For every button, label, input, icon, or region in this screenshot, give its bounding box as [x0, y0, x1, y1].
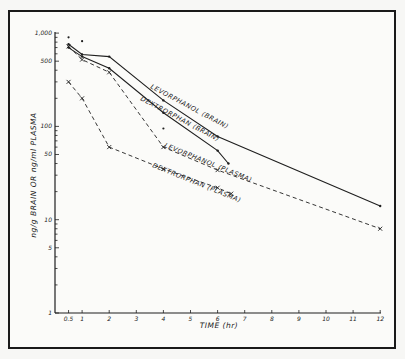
data-curves: [67, 36, 383, 230]
chart-plot: 1510501005001,000 0.5123456789101112 TIM…: [0, 0, 405, 359]
x-tick-label: 9: [297, 315, 301, 322]
data-point-dot: [108, 67, 110, 69]
data-point-dot: [67, 36, 69, 38]
data-point-dot: [108, 55, 110, 57]
data-point-dot: [81, 55, 83, 57]
x-tick-label: 12: [376, 315, 384, 322]
data-point-x-marker: [67, 80, 71, 84]
data-point-dot: [379, 205, 381, 207]
data-point-dot: [162, 99, 164, 101]
y-axis-title: ng/g BRAIN OR ng/ml PLASMA: [29, 112, 38, 237]
y-tick-label: 1,000: [35, 29, 52, 36]
x-tick-label: 3: [134, 315, 138, 322]
data-point-dot: [227, 162, 229, 164]
y-tick-label: 500: [41, 57, 53, 64]
data-point-x-marker: [80, 96, 84, 100]
y-tick-label: 10: [44, 216, 52, 223]
x-tick-label: 11: [349, 315, 357, 322]
data-point-dot: [81, 40, 83, 42]
y-tick-label: 50: [44, 150, 52, 157]
x-tick-label: 0.5: [64, 315, 74, 322]
data-point-dot: [216, 149, 218, 151]
y-tick-label: 5: [48, 244, 52, 251]
y-tick-label: 100: [41, 122, 53, 129]
data-point-x-marker: [378, 227, 382, 231]
data-point-dot: [81, 53, 83, 55]
data-point-x-marker: [107, 70, 111, 74]
data-point-x-marker: [80, 58, 84, 62]
x-tick-label: 2: [107, 315, 111, 322]
x-tick-label: 1: [80, 315, 84, 322]
x-tick-label: 5: [189, 315, 193, 322]
x-tick-label: 10: [322, 315, 330, 322]
x-axis-title: TIME (hr): [200, 321, 239, 330]
x-tick-label: 4: [161, 315, 165, 322]
y-tick-label: 1: [48, 309, 52, 316]
x-tick-label: 8: [270, 315, 274, 322]
data-point-dot: [162, 127, 164, 129]
x-tick-label: 7: [243, 315, 247, 322]
data-point-x-marker: [107, 145, 111, 149]
